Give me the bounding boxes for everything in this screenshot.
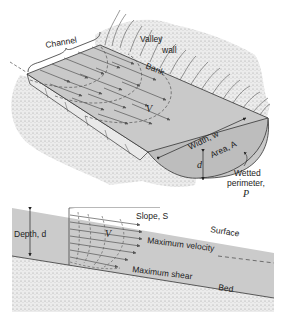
top-panel: Channel Valley wall Bank V Width, w Area… <box>10 10 270 199</box>
surface-label: Surface <box>210 224 241 239</box>
wall-label: wall <box>161 45 177 55</box>
depth-label: Depth, d <box>14 229 46 239</box>
channel-axis-dash <box>10 62 26 72</box>
channel-diagram: Channel Valley wall Bank V Width, w Area… <box>0 0 282 319</box>
bottom-panel: V Depth, d Slope, S Surface Maximum velo… <box>12 208 274 312</box>
valley-label: Valley <box>140 34 163 44</box>
wetted-symbol: P <box>242 188 249 199</box>
slope-label: Slope, S <box>136 211 168 221</box>
wetted-label-2: perimeter, <box>227 178 265 188</box>
bed-label: Bed <box>218 282 235 294</box>
channel-label: Channel <box>45 35 78 50</box>
wetted-label-1: Wetted <box>234 168 261 178</box>
